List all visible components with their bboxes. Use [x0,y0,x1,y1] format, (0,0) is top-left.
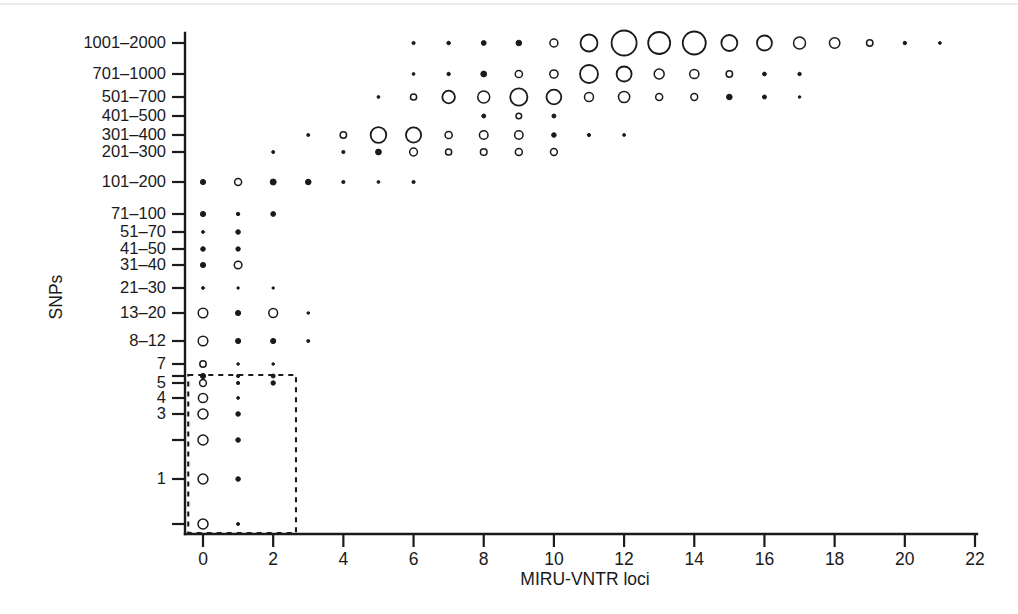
data-point [903,41,906,44]
data-point [763,72,767,76]
y-tick-label: 501–700 [102,87,166,105]
data-point [236,381,239,384]
data-point [236,374,239,377]
data-point [271,374,275,378]
y-tick-label: 51–70 [120,222,166,240]
y-tick-label: 31–40 [120,255,166,273]
data-point [200,380,207,387]
data-point [200,262,205,267]
data-point [727,94,733,100]
x-tick-label: 6 [409,549,419,569]
data-point [198,336,208,346]
data-point [481,71,487,77]
x-tick-label: 0 [198,549,208,569]
x-tick-label: 20 [895,549,915,569]
data-point [612,31,637,56]
x-axis-ticks [203,534,975,547]
x-tick-label: 18 [825,549,844,569]
plot-canvas: 1001–2000701–1000501–700401–500301–40020… [0,0,1018,614]
data-point [271,212,276,217]
data-point [547,90,562,105]
y-tick-label: 21–30 [120,278,166,296]
data-point [585,93,594,102]
data-point [236,438,241,443]
data-point [200,373,205,378]
y-tick-label: 701–1000 [93,64,166,82]
data-point [690,69,699,78]
data-point [235,338,240,343]
y-axis-tick-labels: 1001–2000701–1000501–700401–500301–40020… [83,33,166,487]
data-point [237,287,239,289]
y-tick-label: 1001–2000 [83,33,166,51]
data-point [272,363,275,366]
data-point [515,131,523,139]
data-point [721,35,737,51]
data-point [236,212,239,215]
y-tick-label: 13–20 [120,303,166,321]
data-point [342,180,345,183]
data-point [376,149,382,155]
data-point [516,113,522,119]
x-tick-label: 16 [755,549,774,569]
x-tick-label: 12 [614,549,633,569]
data-point [798,96,801,99]
data-point [342,150,345,153]
data-point [481,41,486,46]
data-point [798,72,801,75]
data-point [198,409,208,419]
data-point [726,71,732,77]
data-point [939,42,942,45]
data-point [371,127,387,143]
data-point [272,151,275,154]
data-point [198,393,207,402]
y-tick-label: 7 [157,354,166,372]
data-point [412,41,415,44]
data-point [587,133,590,136]
x-tick-label: 10 [544,549,564,569]
data-point [550,70,558,78]
x-axis-title: MIRU-VNTR loci [520,569,649,589]
data-point [446,149,452,155]
dashed-highlight-box [188,375,296,533]
data-point [479,131,488,140]
data-point [406,127,421,142]
data-point [867,40,873,46]
x-tick-label: 14 [685,549,705,569]
y-tick-label: 101–200 [102,172,166,190]
data-point [510,88,527,105]
data-point [340,132,346,138]
data-point [412,73,415,76]
data-point [237,397,240,400]
data-point [271,381,275,385]
data-point [234,261,242,269]
data-point [235,310,240,315]
data-point [305,179,311,185]
y-tick-label: 201–300 [102,142,166,160]
data-point [445,131,452,138]
data-point [447,72,450,75]
data-point [410,94,416,100]
data-point [552,114,556,118]
data-point [412,180,415,183]
data-point-bubbles [198,31,941,530]
y-axis-title: SNPs [46,274,66,319]
data-point [235,179,242,186]
data-point [270,179,276,185]
data-point [447,41,451,45]
data-point [478,91,490,103]
data-point [200,179,205,184]
data-point [198,519,208,529]
data-point [410,148,418,156]
x-tick-label: 2 [268,549,278,569]
data-point [201,247,206,252]
data-point [198,474,208,484]
data-point [794,37,806,49]
data-point [516,40,522,46]
y-tick-label: 401–500 [102,106,166,124]
x-tick-label: 22 [965,549,984,569]
y-tick-label: 301–400 [102,125,166,143]
data-point [272,287,274,289]
data-point [656,94,663,101]
data-point [198,435,208,445]
data-point [581,35,598,52]
